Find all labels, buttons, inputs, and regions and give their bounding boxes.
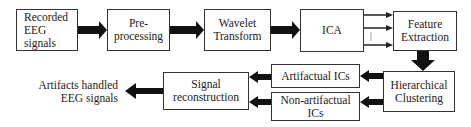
node-hierarchical-clustering: HierarchicalClustering [383, 71, 455, 112]
arrow-wavelet-to-ica [271, 21, 300, 39]
node-text: ICA [322, 24, 342, 37]
arrow-reconstruction-to-output [125, 83, 163, 99]
node-preprocessing: Pre-processing [107, 9, 170, 51]
node-text: signals [24, 37, 56, 49]
arrows-ica-to-feature [364, 12, 393, 48]
arrow-artifactual-to-reconstruction [249, 71, 271, 83]
node-artifactual-ics: Artifactual ICs [271, 64, 360, 88]
node-ica: ICA [300, 9, 364, 52]
node-signal-reconstruction: Signalreconstruction [163, 72, 249, 110]
arrow-feature-to-clustering [411, 51, 435, 71]
node-wavelet-transform: WaveletTransform [204, 9, 271, 51]
arrow-clustering-to-artifactual [360, 70, 383, 82]
node-text: Clustering [395, 92, 443, 104]
arrow-clustering-to-nonartifactual [360, 96, 383, 108]
node-text: Extraction [401, 31, 449, 43]
node-text: EEG [24, 24, 46, 36]
node-text: reconstruction [173, 91, 239, 103]
node-text: Signal [191, 78, 220, 90]
node-text: Wavelet [219, 17, 256, 29]
node-text: Pre- [129, 17, 148, 29]
node-text: Artifactual ICs [281, 70, 350, 83]
arrow-nonartifactual-to-reconstruction [249, 96, 271, 108]
output-label: Artifacts handledEEG signals [30, 79, 118, 105]
arrow-recorded-to-preprocessing [78, 21, 107, 39]
node-nonartifactual-ics: Non-artifactualICs [271, 92, 360, 121]
node-text: Transform [213, 30, 261, 42]
node-text: Recorded [24, 11, 68, 23]
arrow-preprocessing-to-wavelet [170, 21, 204, 39]
node-text: Feature [408, 18, 442, 30]
node-text: Hierarchical [391, 79, 448, 91]
output-text: EEG signals [61, 92, 118, 104]
output-text: Artifacts handled [38, 79, 118, 91]
node-recorded-eeg: RecordedEEGsignals [16, 9, 78, 51]
node-text: ICs [308, 107, 324, 119]
node-text: Non-artifactual [280, 94, 350, 106]
node-feature-extraction: FeatureExtraction [393, 11, 457, 51]
node-text: processing [114, 30, 163, 42]
